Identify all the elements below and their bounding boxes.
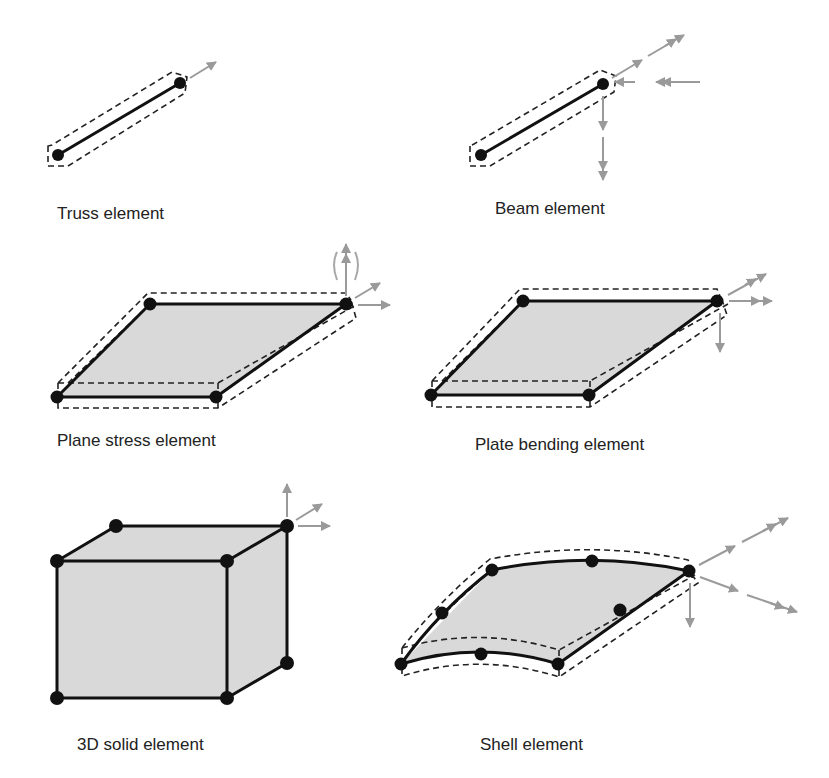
shell-midside-node: [475, 648, 488, 661]
solid-3d-element-diagram: 3D solid element: [50, 484, 330, 754]
shell-midside-node: [586, 555, 599, 568]
solid-node: [220, 554, 234, 568]
truss-node-start: [52, 149, 64, 161]
plate-bending-node: [425, 389, 438, 402]
solid-node: [50, 691, 64, 705]
shell-node: [486, 564, 499, 577]
shell-midside-node: [614, 604, 627, 617]
shell-rotation-arrow-upper-head2: [763, 524, 776, 531]
plane-stress-dof-arrow-diag: [355, 283, 380, 298]
solid-front-face: [57, 561, 227, 698]
shell-dof-arrow-upper: [699, 546, 735, 565]
plane-stress-node: [144, 298, 157, 311]
solid-3d-element-label: 3D solid element: [77, 735, 204, 754]
finite-element-types-diagram: Truss element Beam element: [0, 0, 829, 778]
truss-element-diagram: Truss element: [48, 62, 216, 223]
plate-bending-node: [583, 389, 596, 402]
solid-node: [109, 519, 123, 533]
solid-node: [280, 656, 294, 670]
plane-stress-left-paren: [334, 252, 337, 280]
plane-stress-right-paren: [355, 252, 358, 280]
plate-bending-element-diagram: Plate bending element: [425, 274, 773, 454]
beam-bar: [481, 84, 603, 155]
plane-stress-element-diagram: Plane stress element: [51, 244, 391, 450]
truss-element-label: Truss element: [57, 204, 164, 223]
shell-midside-node: [436, 607, 449, 620]
shell-node: [683, 565, 696, 578]
plane-stress-element-label: Plane stress element: [57, 431, 216, 450]
beam-element-diagram: Beam element: [470, 35, 700, 218]
shell-dof-arrow-lower: [700, 577, 738, 591]
plate-bending-node: [517, 295, 530, 308]
plane-stress-node: [210, 391, 223, 404]
shell-rotation-arrow-lower-head2: [770, 603, 784, 608]
plate-bending-element-label: Plate bending element: [475, 435, 644, 454]
plane-stress-node: [340, 298, 353, 311]
beam-node-start: [475, 149, 487, 161]
truss-axial-dof-arrow: [190, 62, 216, 78]
beam-axial-arrow: [612, 60, 642, 78]
shell-node: [552, 658, 565, 671]
beam-rotation-arrow-head2: [665, 39, 676, 46]
plate-bending-rotation-arrow-head2: [745, 279, 756, 285]
truss-bar: [58, 83, 180, 155]
shell-element-label: Shell element: [480, 735, 583, 754]
solid-dof-arrow-diag: [296, 504, 322, 520]
solid-node: [280, 519, 294, 533]
plate-bending-node: [711, 295, 724, 308]
solid-node: [50, 554, 64, 568]
plane-stress-node: [51, 391, 64, 404]
truss-node-end: [174, 77, 186, 89]
shell-node: [395, 658, 408, 671]
beam-element-label: Beam element: [495, 199, 605, 218]
beam-node-end: [597, 78, 609, 90]
shell-element-diagram: Shell element: [395, 518, 798, 754]
solid-node: [220, 691, 234, 705]
